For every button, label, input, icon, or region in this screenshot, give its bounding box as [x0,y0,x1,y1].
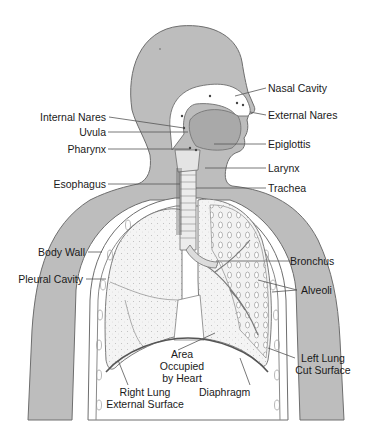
label-internal-nares: Internal Nares [40,111,106,123]
label-pharynx: Pharynx [67,143,106,155]
label-larynx: Larynx [268,162,300,174]
label-right-lung-external-surface: Right Lung External Surface [100,386,190,410]
label-uvula: Uvula [79,126,106,138]
label-alveoli: Alveoli [301,284,332,296]
label-pleural-cavity: Pleural Cavity [18,273,83,285]
label-trachea: Trachea [268,182,306,194]
trachea [180,168,196,250]
esophagus [176,168,182,235]
label-heart-line-2: Occupied [152,360,212,372]
label-esophagus: Esophagus [53,178,106,190]
label-nasal-cavity: Nasal Cavity [268,82,327,94]
label-left-lung-line-2: Cut Surface [292,364,354,376]
label-right-lung-line-2: External Surface [100,398,190,410]
label-left-lung-cut-surface: Left Lung Cut Surface [292,352,354,376]
label-heart-line-1: Area [152,348,212,360]
label-epiglottis: Epiglottis [268,138,311,150]
label-bronchus: Bronchus [290,255,334,267]
label-area-occupied-by-heart: Area Occupied by Heart [152,348,212,384]
label-diaphragm: Diaphragm [199,386,250,398]
label-heart-line-3: by Heart [152,372,212,384]
heart-area [174,295,204,340]
label-left-lung-line-1: Left Lung [292,352,354,364]
label-right-lung-line-1: Right Lung [100,386,190,398]
label-external-nares: External Nares [268,109,337,121]
label-body-wall: Body Wall [38,246,85,258]
